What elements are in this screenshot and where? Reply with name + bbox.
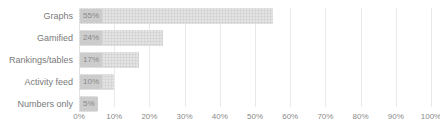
x-axis-tick-labels: 0%10%20%30%40%50%60%70%80%90%100% [79, 111, 431, 125]
bar-row: Activity feed10% [79, 74, 431, 96]
x-tick-label: 40% [212, 111, 228, 123]
x-tick-label: 100% [421, 111, 440, 123]
x-tick-label: 20% [141, 111, 157, 123]
plot-area: Graphs55%Gamified24%Rankings/tables17%Ac… [79, 8, 431, 107]
bar-value-label: 24% [80, 31, 102, 45]
x-tick-label: 0% [73, 111, 85, 123]
bar-value-label: 17% [80, 53, 102, 67]
category-label: Graphs [43, 8, 73, 24]
x-tick-label: 30% [177, 111, 193, 123]
gridline [431, 8, 432, 107]
bar-row: Gamified24% [79, 30, 431, 52]
bar: 10% [79, 74, 114, 90]
category-label: Gamified [37, 30, 73, 46]
bar: 24% [79, 30, 163, 46]
category-label: Numbers only [17, 96, 73, 112]
x-tick-label: 90% [388, 111, 404, 123]
bar-row: Rankings/tables17% [79, 52, 431, 74]
horizontal-bar-chart: Graphs55%Gamified24%Rankings/tables17%Ac… [0, 0, 440, 131]
x-tick-label: 60% [282, 111, 298, 123]
bar-value-label: 55% [80, 9, 102, 23]
category-label: Rankings/tables [9, 52, 73, 68]
bar-value-label: 5% [80, 97, 98, 111]
bar: 17% [79, 52, 139, 68]
bar: 5% [79, 96, 97, 112]
bar: 55% [79, 8, 273, 24]
bar-row: Graphs55% [79, 8, 431, 30]
category-label: Activity feed [24, 74, 73, 90]
x-tick-label: 70% [317, 111, 333, 123]
x-tick-label: 10% [106, 111, 122, 123]
bar-value-label: 10% [80, 75, 102, 89]
x-tick-label: 50% [247, 111, 263, 123]
x-tick-label: 80% [353, 111, 369, 123]
